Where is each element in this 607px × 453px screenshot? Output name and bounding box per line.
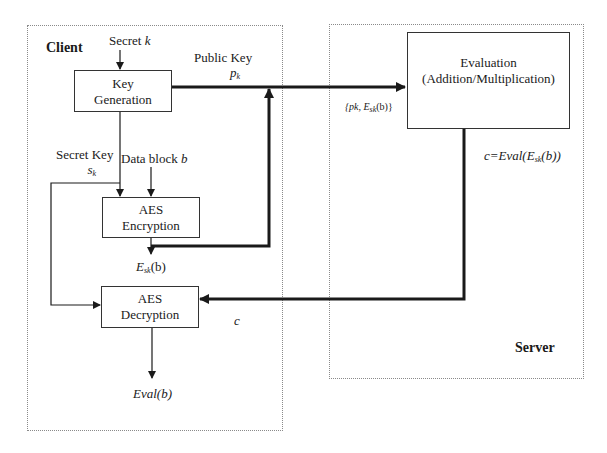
sent-to-server-label: {pk, Esk(b)} — [345, 99, 393, 117]
encrypted-block-label: Esk(b) — [136, 259, 166, 278]
ciphertext-c-label: c — [234, 313, 240, 328]
secret-key-label: Secret Key sk — [56, 147, 113, 181]
evaluation-block: Evaluation (Addition/Multiplication) — [407, 32, 570, 129]
aes-encryption-line2: Encryption — [122, 218, 180, 234]
aes-decryption-block: AES Decryption — [101, 286, 199, 328]
aes-decryption-line1: AES — [138, 291, 163, 307]
server-label: Server — [515, 340, 555, 355]
key-generation-line1: Key — [112, 76, 134, 92]
key-generation-block: Key Generation — [74, 70, 172, 112]
aes-encryption-line1: AES — [139, 202, 164, 218]
secret-k-label: Secret k — [109, 33, 151, 48]
evaluation-line2: (Addition/Multiplication) — [422, 71, 555, 87]
key-generation-line2: Generation — [94, 92, 152, 108]
aes-encryption-block: AES Encryption — [102, 197, 200, 238]
data-block-label: Data block b — [121, 151, 187, 166]
output-eval-b-label: Eval(b) — [133, 386, 172, 401]
aes-decryption-line2: Decryption — [121, 307, 179, 323]
client-label: Client — [46, 40, 83, 55]
server-result-label: c=Eval(Esk(b)) — [484, 148, 561, 167]
public-key-label: Public Key pk — [194, 50, 252, 84]
evaluation-line1: Evaluation — [460, 55, 516, 71]
